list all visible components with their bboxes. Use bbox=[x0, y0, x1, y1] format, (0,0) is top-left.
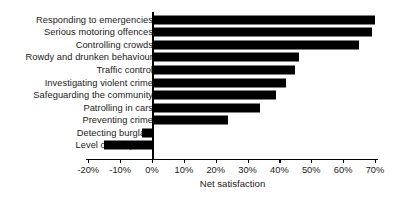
category-label: Preventing crime bbox=[82, 115, 153, 126]
chart-row: Investigating violent crime bbox=[0, 76, 407, 89]
x-axis-title: Net satisfaction bbox=[0, 178, 407, 189]
chart-row: Detecting burglars bbox=[0, 126, 407, 139]
bar bbox=[142, 128, 152, 137]
bar bbox=[152, 78, 286, 87]
category-label: Controlling crowds bbox=[76, 39, 153, 50]
net-satisfaction-bar-chart: Responding to emergenciesSerious motorin… bbox=[0, 0, 407, 198]
category-label: Safeguarding the community bbox=[33, 90, 153, 101]
chart-row: Responding to emergencies bbox=[0, 14, 407, 27]
chart-row: Controlling crowds bbox=[0, 39, 407, 52]
category-label: Traffic control bbox=[96, 64, 153, 75]
category-label: Serious motoring offences bbox=[44, 27, 153, 38]
bar bbox=[152, 103, 260, 112]
bar bbox=[152, 28, 372, 37]
chart-row: Patrolling in cars bbox=[0, 101, 407, 114]
x-axis-tick-label: 10% bbox=[175, 165, 194, 176]
bar bbox=[152, 116, 228, 125]
bar bbox=[104, 141, 152, 150]
chart-row: Level of foot patrol bbox=[0, 139, 407, 152]
x-axis-tick bbox=[88, 159, 89, 163]
chart-row: Preventing crime bbox=[0, 114, 407, 127]
x-axis-tick bbox=[311, 159, 312, 163]
x-axis-line bbox=[86, 159, 378, 160]
bar bbox=[152, 91, 276, 100]
x-axis-tick bbox=[248, 159, 249, 163]
x-axis-tick bbox=[120, 159, 121, 163]
x-axis-tick bbox=[216, 159, 217, 163]
x-axis-tick-label: 50% bbox=[302, 165, 321, 176]
x-axis-tick-label: 40% bbox=[270, 165, 289, 176]
x-axis-tick bbox=[279, 159, 280, 163]
bar bbox=[152, 53, 299, 62]
x-axis-tick bbox=[152, 159, 153, 163]
bar bbox=[152, 65, 295, 74]
x-axis-tick bbox=[343, 159, 344, 163]
category-label: Investigating violent crime bbox=[45, 77, 153, 88]
x-axis-tick-label: 20% bbox=[206, 165, 225, 176]
bar bbox=[152, 40, 359, 49]
category-label: Patrolling in cars bbox=[83, 102, 153, 113]
x-axis-tick-label: 60% bbox=[334, 165, 353, 176]
chart-row: Safeguarding the community bbox=[0, 89, 407, 102]
category-label: Responding to emergencies bbox=[36, 14, 153, 25]
x-axis-tick-label: 0% bbox=[145, 165, 158, 176]
category-label: Rowdy and drunken behaviour bbox=[26, 52, 153, 63]
zero-axis-line bbox=[152, 12, 154, 160]
x-axis-tick-label: -10% bbox=[109, 165, 131, 176]
x-axis-tick-label: 70% bbox=[366, 165, 385, 176]
x-axis-tick bbox=[184, 159, 185, 163]
plot-area: Responding to emergenciesSerious motorin… bbox=[0, 0, 407, 160]
chart-row: Serious motoring offences bbox=[0, 26, 407, 39]
bar bbox=[152, 15, 375, 24]
x-axis-tick-label: 30% bbox=[238, 165, 257, 176]
x-axis-tick-label: -20% bbox=[77, 165, 99, 176]
x-axis-tick bbox=[375, 159, 376, 163]
chart-row: Rowdy and drunken behaviour bbox=[0, 51, 407, 64]
chart-row: Traffic control bbox=[0, 64, 407, 77]
